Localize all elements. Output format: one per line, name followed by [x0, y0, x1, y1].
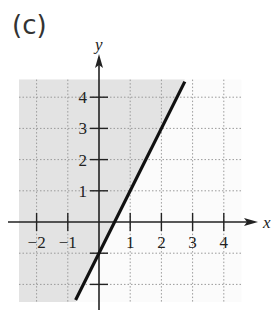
y-tick-label: 2 — [79, 151, 88, 170]
y-axis-label: y — [93, 35, 103, 54]
x-tick-label: 1 — [126, 233, 135, 252]
x-tick-label: 3 — [188, 233, 197, 252]
y-tick-label: 3 — [79, 119, 88, 138]
x-axis-label: x — [262, 213, 271, 232]
inequality-graph: xy−2−112341234 — [0, 0, 273, 320]
y-tick-label: 1 — [79, 182, 88, 201]
x-tick-label: −1 — [59, 233, 77, 252]
y-tick-label: 4 — [79, 88, 88, 107]
x-tick-label: 4 — [220, 233, 229, 252]
x-tick-label: 2 — [157, 233, 166, 252]
x-tick-label: −2 — [28, 233, 46, 252]
